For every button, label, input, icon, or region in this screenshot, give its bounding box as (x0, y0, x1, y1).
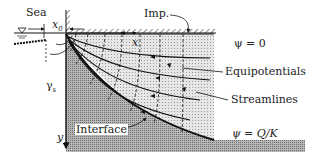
equipotentials-label: Equipotentials (225, 66, 306, 77)
streamlines-label: Streamlines (231, 94, 298, 105)
psi-qk-label: ψ = Q/K (232, 128, 278, 139)
imp-label: Imp. (144, 8, 169, 19)
y-label: y (56, 132, 64, 143)
water-level-icon (18, 28, 26, 33)
x0-label: x0 (52, 19, 63, 33)
sea-label: Sea (26, 7, 47, 18)
vertical-wall (66, 10, 70, 33)
psi-zero-label: ψ = 0 (234, 38, 266, 49)
interface-label: Interface (75, 124, 128, 135)
gamma-s-label: γs (45, 80, 57, 94)
x-label: x (132, 37, 138, 48)
impermeable-boundary (66, 29, 216, 33)
